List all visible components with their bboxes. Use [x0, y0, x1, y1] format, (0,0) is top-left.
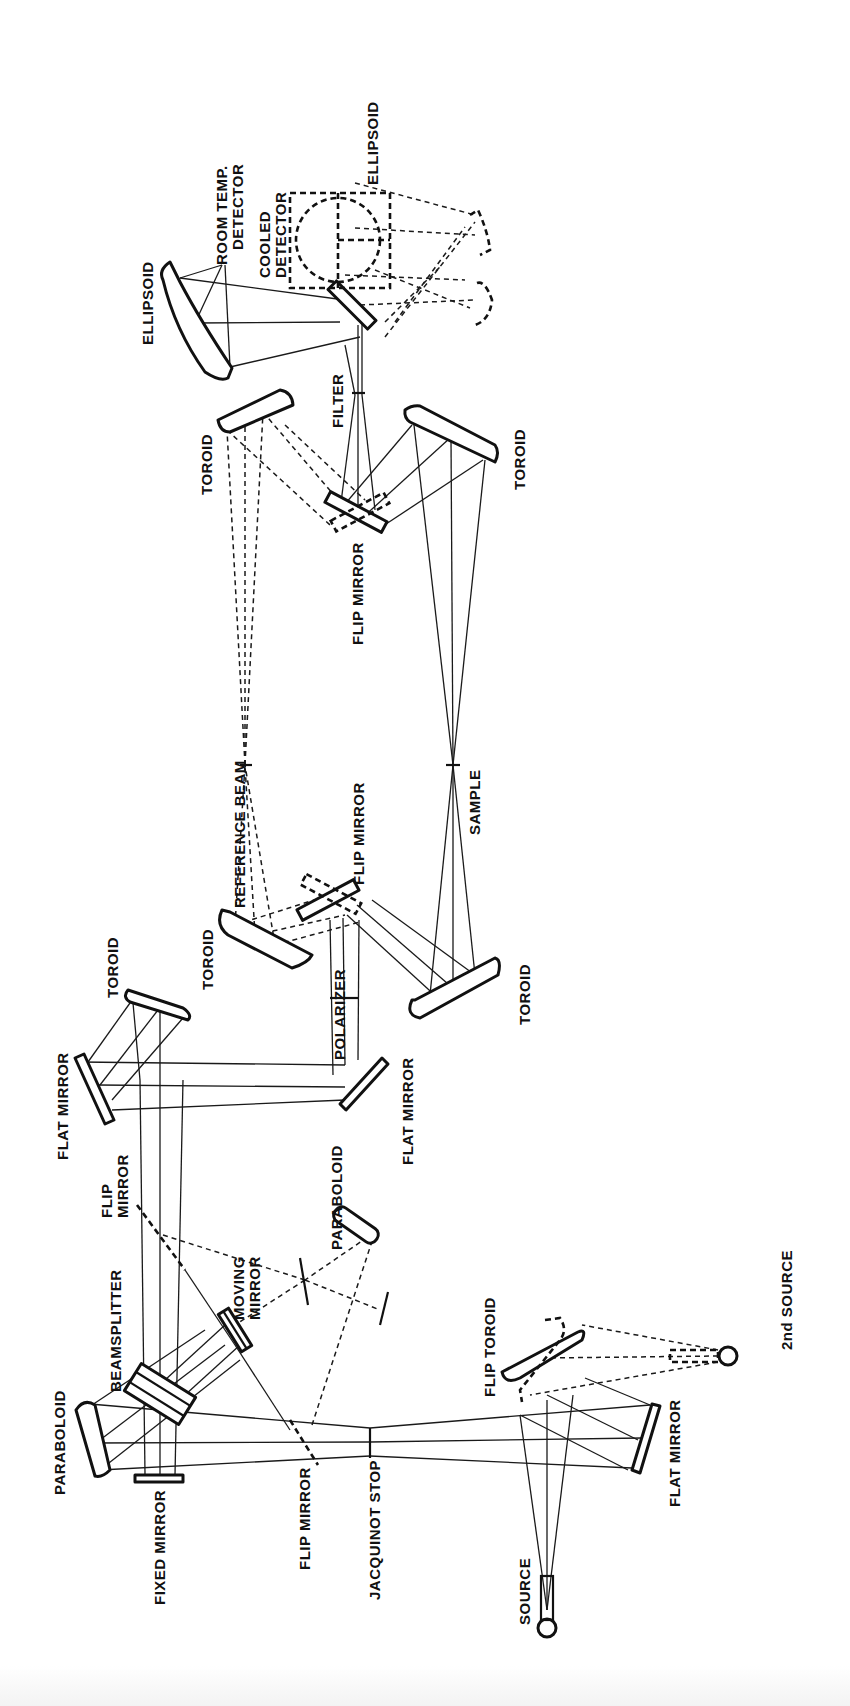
label-moving-mirror-1: MOVING	[230, 1256, 247, 1320]
ellipsoid-room-temp	[162, 262, 232, 379]
second-source-lamp	[719, 1347, 737, 1365]
paraboloid-collimator	[76, 1402, 110, 1476]
label-fixed-mirror: FIXED MIRROR	[151, 1490, 168, 1605]
label-beamsplitter: BEAMSPLITTER	[107, 1269, 124, 1392]
label-filter: FILTER	[329, 374, 346, 428]
label-paraboloid-laser: PARABOLOID	[328, 1145, 345, 1250]
label-polarizer: POLARIZER	[331, 969, 348, 1060]
label-source: SOURCE	[516, 1558, 533, 1625]
label-toroid-ref-in: TOROID	[199, 929, 216, 990]
label-jacquinot-stop: JACQUINOT STOP	[366, 1460, 383, 1600]
label-room-temp-2: DETECTOR	[229, 164, 246, 250]
scan-edge	[0, 1666, 850, 1706]
source-lamp	[538, 1619, 556, 1637]
label-moving-mirror-2: MIRROR	[246, 1256, 263, 1320]
toroid-ref-out	[218, 390, 293, 432]
label-toroid-1: TOROID	[104, 937, 121, 998]
label-room-temp-1: ROOM TEMP.	[213, 165, 230, 265]
flat-mirror-right	[340, 1058, 388, 1110]
label-flat-mirror-source: FLAT MIRROR	[666, 1399, 683, 1507]
fixed-mirror	[135, 1475, 183, 1482]
optical-elements	[75, 193, 737, 1637]
label-ellipsoid-cooled: ELLIPSOID	[364, 101, 381, 185]
flat-mirror-left	[75, 1054, 114, 1124]
flip-toroid	[502, 1331, 584, 1380]
label-flip-toroid: FLIP TOROID	[481, 1297, 498, 1397]
label-sample: SAMPLE	[466, 769, 483, 835]
toroid-1	[125, 990, 189, 1020]
flip-mirror-upper	[137, 1205, 185, 1270]
label-toroid-sample-in: TOROID	[516, 964, 533, 1025]
ellipsoid-cooled-lower	[475, 283, 492, 325]
label-paraboloid-collimator: PARABOLOID	[51, 1390, 68, 1495]
label-second-source: 2nd SOURCE	[778, 1250, 795, 1350]
label-flip-mirror-mid: FLIP MIRROR	[350, 782, 367, 885]
toroid-ref-in	[220, 910, 312, 968]
label-flip-mirror-out: FLIP MIRROR	[349, 542, 366, 645]
label-ellipsoid-room: ELLIPSOID	[139, 261, 156, 345]
optical-diagram: SOURCE 2nd SOURCE FLAT MIRROR FLIP TOROI…	[0, 0, 850, 1706]
label-toroid-ref-out: TOROID	[198, 434, 215, 495]
label-flip-mirror-upper-2: MIRROR	[114, 1154, 131, 1218]
label-cooled-2: DETECTOR	[272, 192, 289, 278]
label-flat-mirror-left: FLAT MIRROR	[54, 1052, 71, 1160]
flip-mirror-out	[325, 492, 387, 533]
label-toroid-sample-out: TOROID	[511, 429, 528, 490]
label-reference-beam: REFERENCE BEAM	[231, 760, 248, 908]
laser-mirror-2	[380, 1292, 388, 1325]
label-flat-mirror-right: FLAT MIRROR	[399, 1057, 416, 1165]
label-flip-mirror-upper-1: FLIP	[98, 1184, 115, 1219]
label-cooled-1: COOLED	[256, 211, 273, 278]
label-flip-mirror-input: FLIP MIRROR	[296, 1467, 313, 1570]
toroid-sample-in	[410, 958, 500, 1018]
ellipsoid-cooled-upper	[470, 210, 490, 255]
